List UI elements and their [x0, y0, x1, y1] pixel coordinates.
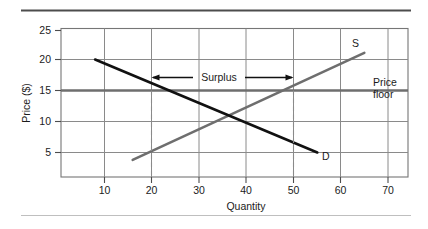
- surplus-arrow-right-head: [286, 74, 294, 80]
- gridlines-vertical: [105, 29, 389, 178]
- surplus-annotation: Surplus: [152, 71, 294, 83]
- y-tick-label: 5: [45, 146, 51, 158]
- demand-curve-label: D: [322, 150, 330, 162]
- y-tick-label: 15: [39, 84, 51, 96]
- price-floor-label: Price floor: [373, 76, 397, 100]
- surplus-arrow-left-head: [152, 74, 160, 80]
- x-tick-label: 40: [240, 184, 252, 196]
- x-axis-title: Quantity: [226, 200, 266, 212]
- y-tick-label: 20: [39, 53, 51, 65]
- y-tick-labels: 25 20 15 10 5: [39, 24, 51, 158]
- supply-curve-label: S: [352, 37, 359, 49]
- surplus-label: Surplus: [201, 71, 237, 83]
- x-tick-label: 50: [288, 184, 300, 196]
- x-tick-label: 30: [193, 184, 205, 196]
- x-tick-label: 10: [99, 184, 111, 196]
- x-tick-label: 70: [382, 184, 394, 196]
- x-tick-labels: 10 20 30 40 50 60 70: [99, 184, 394, 196]
- y-axis-title: Price ($): [20, 83, 32, 123]
- x-axis-ticks: [105, 177, 389, 183]
- price-floor-label-line1: Price: [373, 76, 397, 88]
- figure-container: 25 20 15 10 5 10 20 30 40 50 60 70 Quant…: [0, 0, 428, 229]
- y-tick-label: 10: [39, 115, 51, 127]
- x-tick-label: 60: [335, 184, 347, 196]
- supply-curve: [133, 53, 365, 160]
- price-floor-label-line2: floor: [373, 88, 394, 100]
- y-tick-label: 25: [39, 24, 51, 36]
- x-tick-label: 20: [146, 184, 158, 196]
- supply-demand-chart: 25 20 15 10 5 10 20 30 40 50 60 70 Quant…: [0, 0, 428, 229]
- plot-frame: [61, 29, 408, 178]
- y-axis-ticks: [55, 31, 61, 153]
